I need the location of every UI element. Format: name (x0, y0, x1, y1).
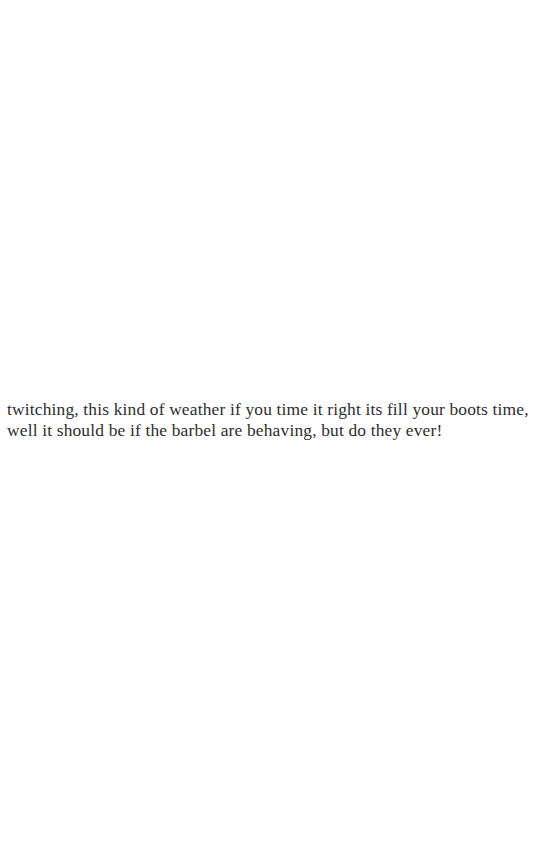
paragraph-line-2: well it should be if the barbel are beha… (7, 420, 527, 441)
bottom-whitespace (0, 444, 539, 864)
paragraph-line-1: twitching, this kind of weather if you t… (7, 399, 527, 420)
top-whitespace (0, 0, 539, 396)
body-paragraph: twitching, this kind of weather if you t… (7, 399, 527, 441)
document-page: twitching, this kind of weather if you t… (0, 0, 539, 864)
